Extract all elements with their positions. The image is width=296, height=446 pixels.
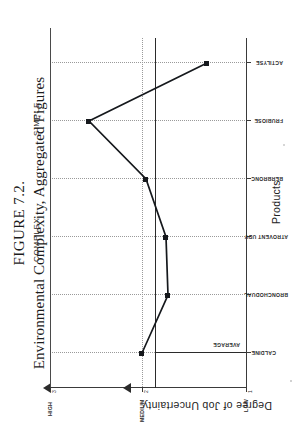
average-label: AVERAGE [213,342,240,348]
y-label-high: HIGH [47,402,53,416]
data-series-uncertainty [50,38,247,388]
chart-inner: COMPLEX SIMPLE AVERAGE CALDINE BRONCHODU… [62,38,247,388]
y-number-3: 3 [51,390,57,393]
scan-speck [283,144,285,146]
data-point-marker [139,351,144,356]
figure-title-block: FIGURE 7.2. Environmental Complexity, Ag… [10,0,49,446]
y-number-1: 1 [247,390,253,393]
x-axis-title: Products [270,180,282,224]
y-axis-title: Degree of Job Uncertainty [143,400,272,412]
figure-number: FIGURE 7.2. [10,0,29,446]
data-point-marker [165,293,170,298]
x-label-atrovent-udv: ATROVENT UDV [244,234,288,240]
series-line [89,63,207,353]
x-label-frubiose: FRUBIOSE [254,118,283,124]
scan-speck [290,381,292,383]
chart-plot-area: COMPLEX SIMPLE AVERAGE CALDINE BRONCHODU… [62,38,247,388]
data-point-marker [143,177,148,182]
zone-label-complex: COMPLEX [32,217,41,262]
figure-page: FIGURE 7.2. Environmental Complexity, Ag… [0,0,296,446]
zone-label-simple: SIMPLE [32,102,41,136]
x-label-caldine: CALDINE [251,350,276,356]
x-label-bronchodual: BRONCHODUAL [244,292,288,298]
y-number-2: 2 [143,390,149,393]
x-label-actilyse: ACTILYSE [256,60,283,66]
data-point-marker [204,61,209,66]
data-point-marker [163,235,168,240]
data-point-marker [86,119,91,124]
